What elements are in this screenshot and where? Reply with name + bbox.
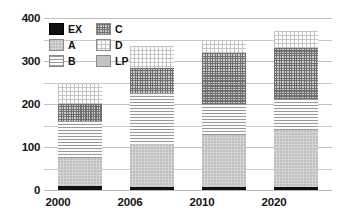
legend-swatch-lp xyxy=(96,55,111,67)
segment-2010-C xyxy=(202,53,246,103)
segment-2020-D xyxy=(274,31,318,48)
y-tick-200: 200 xyxy=(0,98,40,110)
segment-2006-A xyxy=(130,144,174,187)
y-tick-100: 100 xyxy=(0,141,40,153)
x-tick-2006: 2006 xyxy=(100,196,160,208)
x-tick-2010: 2010 xyxy=(172,196,232,208)
segment-2000-B xyxy=(58,121,102,158)
segment-2020-C xyxy=(274,48,318,100)
legend-swatch-d xyxy=(96,39,111,51)
legend-swatch-c xyxy=(96,23,111,35)
legend-label-ex: EX xyxy=(68,23,92,35)
segment-2000-D xyxy=(58,83,102,105)
segment-2006-EX xyxy=(130,187,174,190)
legend-label-c: C xyxy=(115,23,138,35)
segment-2010-D xyxy=(202,40,246,54)
stacked-bar-chart: 400 300 200 100 0 2000 2006 2010 2020 EX… xyxy=(0,0,337,220)
x-tick-2020: 2020 xyxy=(244,196,304,208)
segment-2020-EX xyxy=(274,187,318,190)
x-tick-2000: 2000 xyxy=(28,196,88,208)
segment-2006-B xyxy=(130,93,174,143)
segment-2010-EX xyxy=(202,187,246,190)
segment-2020-A xyxy=(274,130,318,187)
segment-2000-A xyxy=(58,158,102,186)
segment-2000-C xyxy=(58,104,102,121)
segment-2006-C xyxy=(130,68,174,93)
axis-baseline xyxy=(44,190,332,191)
y-tick-0: 0 xyxy=(0,184,40,196)
gridline-400 xyxy=(44,18,332,19)
legend-label-b: B xyxy=(68,55,92,67)
segment-2010-A xyxy=(202,135,246,188)
legend-swatch-ex xyxy=(49,23,64,35)
legend-swatch-a xyxy=(49,39,64,51)
y-tick-300: 300 xyxy=(0,55,40,67)
legend-swatch-b xyxy=(49,55,64,67)
legend-label-d: D xyxy=(115,39,138,51)
legend-label-lp: LP xyxy=(115,55,138,67)
legend-label-a: A xyxy=(68,39,92,51)
y-tick-400: 400 xyxy=(0,12,40,24)
chart-legend: EX C A D B LP xyxy=(49,21,138,69)
segment-2020-B xyxy=(274,99,318,130)
segment-2000-EX xyxy=(58,186,102,190)
segment-2010-B xyxy=(202,104,246,135)
